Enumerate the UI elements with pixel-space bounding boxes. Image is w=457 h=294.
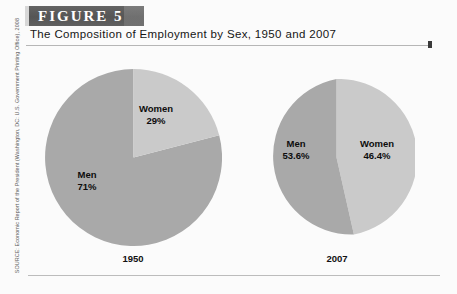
figure-badge-label: FIGURE 5	[29, 6, 124, 26]
pie-1950-year-label: 1950	[103, 253, 163, 264]
source-note: SOURCE: Economic Report of the President…	[14, 73, 21, 273]
pie-chart-2007: Men 53.6% Women 46.4%	[258, 79, 415, 236]
bottom-divider	[28, 275, 440, 276]
pie-2007-year-label: 2007	[307, 253, 367, 264]
title-divider-end-tick	[428, 41, 432, 48]
pie-2007-men-label: Men 53.6%	[265, 138, 327, 161]
pie-1950-women-name: Women	[139, 103, 173, 114]
pie-2007-women-label: Women 46.4%	[346, 138, 408, 161]
pie-1950-women-label: Women 29%	[121, 103, 191, 126]
figure-panel: FIGURE 5 The Composition of Employment b…	[0, 0, 457, 294]
figure-badge-bar: FIGURE 5	[25, 6, 144, 26]
pie-1950-men-name: Men	[78, 169, 97, 180]
pie-2007-women-name: Women	[360, 138, 394, 149]
badge-bar-tail	[124, 6, 144, 26]
pie-2007-men-name: Men	[287, 138, 306, 149]
pie-1950-women-value: 29%	[146, 115, 165, 126]
pie-1950-svg	[45, 69, 222, 246]
pie-1950-men-value: 71%	[77, 181, 96, 192]
pie-chart-1950: Women 29% Men 71%	[45, 69, 222, 246]
pie-2007-men-value: 53.6%	[283, 150, 310, 161]
figure-title: The Composition of Employment by Sex, 19…	[30, 28, 336, 40]
pie-2007-women-value: 46.4%	[364, 150, 391, 161]
pie-1950-men-label: Men 71%	[52, 169, 122, 192]
title-divider	[26, 45, 430, 46]
